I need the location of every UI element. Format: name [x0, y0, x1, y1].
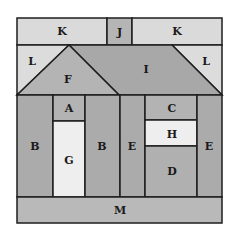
label-e-right: E	[205, 140, 213, 153]
label-e-left: E	[128, 140, 136, 153]
label-b-right: B	[97, 140, 106, 153]
label-b-left: B	[30, 140, 39, 153]
label-l-left: L	[28, 55, 36, 68]
label-d: D	[167, 165, 177, 178]
label-k-right: K	[172, 25, 182, 38]
label-m: M	[114, 204, 126, 217]
label-j: J	[116, 26, 122, 39]
label-l-right: L	[202, 55, 210, 68]
label-f: F	[64, 73, 72, 86]
quilt-block-diagram: K J K L L F I A G B B E E C H D M	[0, 0, 239, 233]
label-h: H	[167, 128, 177, 141]
label-c: C	[168, 102, 177, 115]
label-i: I	[143, 63, 148, 76]
label-a: A	[64, 102, 74, 115]
label-g: G	[64, 154, 73, 167]
label-k-left: K	[57, 25, 67, 38]
